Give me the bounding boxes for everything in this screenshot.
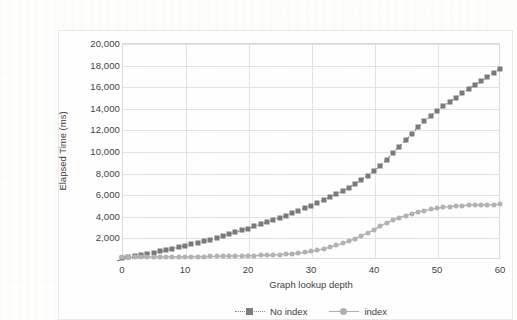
gridline-horizontal (123, 66, 499, 67)
gridline-vertical (249, 44, 250, 258)
gridline-vertical (438, 44, 439, 258)
chart-legend: No index index (122, 306, 500, 317)
gridline-horizontal (123, 174, 499, 175)
legend-item-no-index[interactable]: No index (235, 306, 308, 317)
x-tick-label: 10 (180, 264, 191, 275)
gridline-horizontal (123, 109, 499, 110)
x-tick-label: 60 (495, 264, 506, 275)
y-axis-title: Elapsed Time (ms) (57, 111, 68, 190)
gridline-vertical (186, 44, 187, 258)
x-tick-label: 40 (369, 264, 380, 275)
x-tick-label: 0 (119, 264, 124, 275)
y-tick-label: 20,000 (46, 38, 120, 49)
legend-swatch-no-index (235, 307, 265, 316)
circle-marker-icon (340, 308, 347, 315)
x-axis-title: Graph lookup depth (122, 279, 500, 290)
y-tick-label: 16,000 (46, 81, 120, 92)
x-tick-label: 30 (306, 264, 317, 275)
gridline-vertical (312, 44, 313, 258)
plot-area (122, 43, 500, 259)
gridline-horizontal (123, 152, 499, 153)
legend-item-index[interactable]: index (329, 306, 387, 317)
y-tick-label: 18,000 (46, 59, 120, 70)
gridline-vertical (375, 44, 376, 258)
legend-label-no-index: No index (270, 306, 308, 317)
chart-figure: -2,0004,0006,0008,00010,00012,00014,0001… (40, 16, 517, 320)
x-tick-label: 50 (432, 264, 443, 275)
gridline-horizontal (123, 195, 499, 196)
y-tick-label: 4,000 (46, 210, 120, 221)
x-axis-ticks: 0102030405060 (122, 264, 500, 278)
legend-swatch-index (329, 307, 359, 316)
gridline-horizontal (123, 130, 499, 131)
gridline-horizontal (123, 87, 499, 88)
legend-label-index: index (364, 306, 387, 317)
gridline-horizontal (123, 44, 499, 45)
square-marker-icon (246, 308, 253, 315)
y-tick-label: - (46, 254, 120, 265)
x-tick-label: 20 (243, 264, 254, 275)
y-tick-label: 2,000 (46, 232, 120, 243)
y-axis-ticks: -2,0004,0006,0008,00010,00012,00014,0001… (40, 43, 120, 259)
gridline-horizontal (123, 217, 499, 218)
gridline-horizontal (123, 238, 499, 239)
